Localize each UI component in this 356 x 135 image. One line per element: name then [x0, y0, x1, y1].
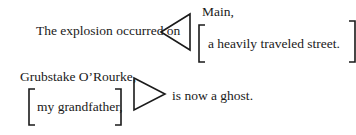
lead-text: The explosion occurred on — [36, 24, 180, 38]
appositive-bracketed: my grandfather, — [37, 100, 123, 114]
appositive-main: Main, — [202, 5, 234, 19]
left-bracket-2 — [29, 89, 35, 125]
predicate-text: is now a ghost. — [172, 89, 253, 103]
right-pointer-triangle-icon — [134, 78, 165, 110]
left-bracket-1 — [199, 25, 205, 62]
right-bracket-1 — [349, 21, 355, 62]
diagram-shapes — [0, 0, 356, 135]
appositive-bracketed: a heavily traveled street. — [208, 37, 340, 51]
subject-text: Grubstake O’Rourke, — [20, 70, 136, 84]
